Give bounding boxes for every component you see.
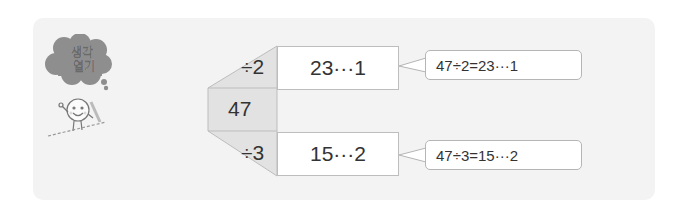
equation-callout-2: 47÷2=23···1: [425, 50, 582, 80]
dividend-value: 47: [228, 97, 251, 121]
callout-pointer-bottom: [399, 148, 426, 162]
divisor-label-2: ÷2: [241, 55, 264, 79]
division-diagram: ÷2 47 ÷3 23···1 15···2 47÷2=23···1 47÷3=…: [0, 0, 690, 214]
equation-callout-3: 47÷3=15···2: [425, 140, 582, 170]
equation-text: 47÷3=15···2: [436, 147, 518, 164]
quotient-remainder-box-2: 23···1: [277, 46, 399, 90]
quotient-remainder-box-3: 15···2: [277, 132, 399, 176]
callout-pointer-top: [399, 58, 426, 72]
equation-text: 47÷2=23···1: [436, 57, 518, 74]
dividend-arrow-shape: [0, 0, 690, 214]
result-text: 23···1: [310, 56, 366, 80]
result-text: 15···2: [310, 142, 366, 166]
divisor-label-3: ÷3: [241, 141, 264, 165]
